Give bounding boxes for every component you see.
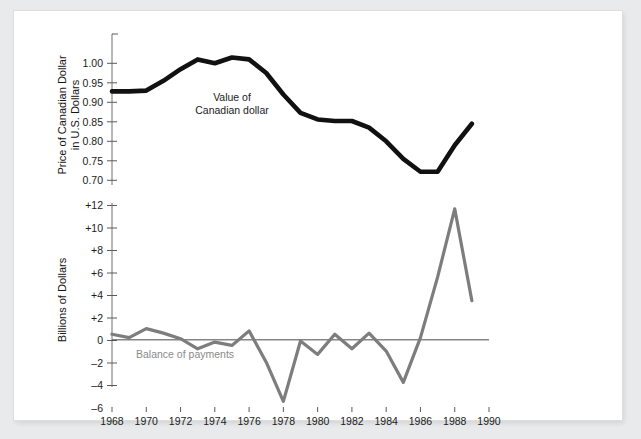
lower-annotation: Balance of payments (136, 348, 234, 360)
lower-ytick-label-zero: 0 (97, 334, 103, 346)
upper-ytick-label-0-70: 0.70 (83, 174, 104, 186)
x-tick-label-1990: 1990 (477, 415, 501, 427)
lower-ytick-label-plus10: +10 (85, 222, 103, 234)
upper-y-axis-title: Price of Canadian Dollar in U.S. Dollars (56, 55, 81, 175)
lower-ytick-label-plus8: +8 (91, 244, 103, 256)
upper-ytick-label-1-00: 1.00 (83, 57, 104, 69)
upper-ytick-label-0-80: 0.80 (83, 135, 104, 147)
upper-y-axis-title-line2: in U.S. Dollars (69, 79, 81, 150)
x-tick-label-1986: 1986 (409, 415, 433, 427)
x-tick-label-1978: 1978 (272, 415, 296, 427)
x-tick-label-1970: 1970 (135, 415, 159, 427)
x-tick-label-1988: 1988 (443, 415, 467, 427)
balance-of-payments-line (112, 209, 472, 402)
upper-annotation-line1: Value of (213, 91, 251, 103)
lower-ytick-label-minus6: –6 (91, 402, 103, 414)
x-tick-label-1982: 1982 (340, 415, 364, 427)
canadian-dollar-value-line (112, 57, 472, 171)
x-axis-group: 1968197019721974197619781980198219841986… (100, 407, 501, 427)
x-tick-label-1984: 1984 (375, 415, 399, 427)
x-tick-labels: 1968197019721974197619781980198219841986… (100, 415, 501, 427)
lower-ytick-label-plus12: +12 (85, 199, 103, 211)
lower-ytick-label-plus6: +6 (91, 267, 103, 279)
lower-y-axis-title: Billions of Dollars (56, 257, 68, 342)
x-tick-label-1968: 1968 (100, 415, 124, 427)
upper-annotation-line2: Canadian dollar (195, 104, 269, 116)
lower-ytick-label-plus2: +2 (91, 312, 103, 324)
x-tick-label-1976: 1976 (237, 415, 261, 427)
upper-ytick-label-0-90: 0.90 (83, 96, 104, 108)
lower-ytick-label-minus2: –2 (91, 357, 103, 369)
lower-ytick-label-minus4: –4 (91, 379, 103, 391)
x-tick-label-1974: 1974 (203, 415, 227, 427)
lower-ytick-label-plus4: +4 (91, 289, 103, 301)
x-tick-marks (112, 407, 489, 412)
x-tick-label-1980: 1980 (306, 415, 330, 427)
upper-ytick-label-0-95: 0.95 (83, 77, 104, 89)
dual-line-chart: 1.00 0.95 0.90 0.85 0.80 0.75 0.70 Price… (0, 0, 641, 439)
figure-root: 1.00 0.95 0.90 0.85 0.80 0.75 0.70 Price… (0, 0, 641, 439)
x-tick-label-1972: 1972 (169, 415, 193, 427)
upper-y-axis-title-line1: Price of Canadian Dollar (56, 55, 68, 175)
upper-ytick-label-0-75: 0.75 (83, 155, 104, 167)
upper-chart-group: 1.00 0.95 0.90 0.85 0.80 0.75 0.70 Price… (56, 34, 472, 186)
lower-chart-group: +12 +10 +8 +6 +4 +2 0 –2 –4 –6 Billions … (56, 199, 489, 414)
upper-ytick-label-0-85: 0.85 (83, 116, 104, 128)
